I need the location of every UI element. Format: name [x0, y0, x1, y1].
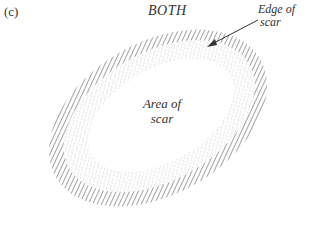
area-of-scar-label: Area of scar	[132, 96, 192, 126]
area-label-line2: scar	[132, 111, 192, 126]
area-label-line1: Area of	[132, 96, 192, 111]
